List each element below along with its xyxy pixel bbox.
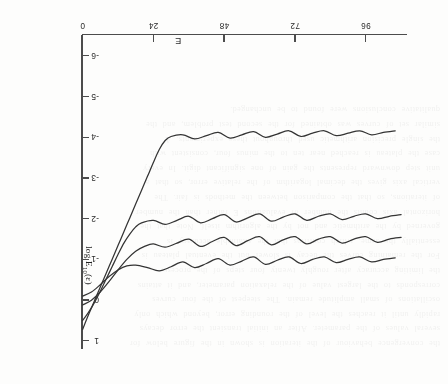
scanned-page: the convergence behaviour of the iterati…: [0, 0, 448, 384]
data-curve: [83, 214, 402, 321]
page-rotation-container: the convergence behaviour of the iterati…: [0, 0, 448, 384]
data-curve: [83, 257, 396, 296]
data-curve: [83, 131, 396, 330]
curve-layer: [0, 0, 448, 384]
data-curve: [83, 236, 402, 305]
plot-area: 024487296 -6-5-4-3-2-101 E log E10(ε): [0, 0, 448, 384]
